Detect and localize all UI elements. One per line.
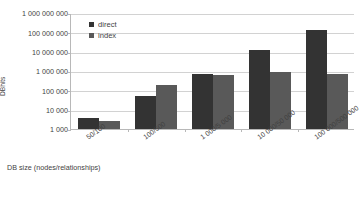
chart-legend: directindex: [86, 17, 121, 43]
y-axis-title: DBhits: [0, 77, 6, 96]
x-tick: [298, 129, 299, 132]
bar-direct[interactable]: [306, 30, 327, 129]
legend-swatch-icon: [89, 22, 94, 27]
bar-direct[interactable]: [135, 96, 156, 129]
legend-label: direct: [98, 21, 117, 29]
y-tick-label: 100 000: [2, 88, 68, 95]
legend-label: index: [98, 32, 116, 40]
bar-direct[interactable]: [192, 74, 213, 129]
y-tick: [68, 130, 71, 131]
x-tick: [241, 129, 242, 132]
y-tick-label: 10 000 000: [2, 49, 68, 56]
x-tick: [128, 129, 129, 132]
bar-group: [128, 14, 185, 129]
legend-item[interactable]: index: [89, 30, 117, 41]
y-tick-label: 10 000: [2, 107, 68, 114]
x-tick: [185, 129, 186, 132]
bar-group: [185, 14, 242, 129]
bar-direct[interactable]: [249, 50, 270, 129]
y-tick-label: 1 000: [2, 126, 68, 133]
legend-item[interactable]: direct: [89, 19, 117, 30]
y-tick-label: 1 000 000: [2, 68, 68, 75]
y-tick-label: 100 000 000: [2, 30, 68, 37]
x-axis-title: DB size (nodes/relationships): [7, 163, 100, 172]
legend-swatch-icon: [89, 33, 94, 38]
y-tick-label: 1 000 000 000: [2, 10, 68, 17]
bar-chart: 1 000 000 000100 000 00010 000 0001 000 …: [0, 0, 364, 201]
